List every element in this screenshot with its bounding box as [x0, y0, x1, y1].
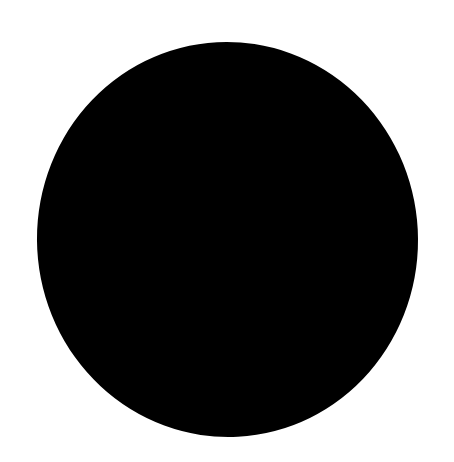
canvas [0, 0, 454, 462]
black-circle-shape [27, 32, 428, 446]
